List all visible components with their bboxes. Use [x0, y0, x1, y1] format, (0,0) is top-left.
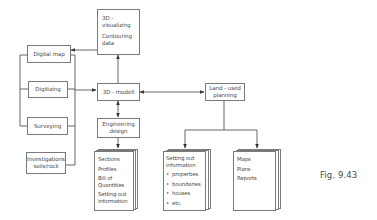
doc-line: Maps	[237, 156, 257, 163]
doc-line: Profiles	[98, 166, 127, 173]
node-line: Land - used	[209, 85, 241, 92]
doc-bullet: houses	[166, 190, 201, 197]
node-line: Contouring	[102, 33, 132, 40]
node-line: Engineering	[102, 121, 134, 128]
node-line: design	[110, 128, 128, 135]
node-label: 3D - modell	[103, 89, 134, 96]
node-3d-visualizing: 3D - visualizing Contouring data	[97, 9, 140, 55]
doc-engineering-outputs: Sections Profiles Bill of Quantities Set…	[94, 149, 138, 211]
node-engineering-design: Engineering design	[97, 118, 140, 138]
node-digitizing: Digitizing	[28, 81, 68, 98]
doc-bullet: etc.	[166, 200, 201, 207]
doc-bullet: boundaries	[166, 181, 201, 188]
node-surveying: Surveying	[27, 117, 68, 135]
doc-title-line: information	[166, 162, 201, 169]
doc-maps-plans-reports: Maps Plans Reports	[233, 149, 281, 211]
right-bracket-line	[66, 55, 75, 165]
doc-line: Bill of	[98, 175, 127, 182]
node-label: Surveying	[34, 123, 61, 130]
node-line: data	[102, 40, 114, 47]
node-line: soils/rock	[33, 163, 58, 170]
doc-title-line: Setting out	[166, 155, 201, 162]
doc-setting-out-information: Setting out information properties bound…	[163, 149, 211, 211]
node-label: Digital map	[33, 51, 64, 58]
node-line: visualizing	[102, 22, 130, 29]
doc-line: Reports	[237, 175, 257, 182]
figure-caption: Fig. 9.43	[320, 170, 357, 180]
node-line: planning	[213, 92, 236, 99]
diagram-canvas: 3D - visualizing Contouring data Digital…	[0, 0, 377, 220]
node-label: Digitizing	[35, 86, 60, 93]
node-line: Investigations	[27, 156, 65, 163]
node-3d-modell: 3D - modell	[97, 83, 140, 101]
node-land-use-planning: Land - used planning	[205, 83, 245, 101]
doc-bullet: properties	[166, 171, 201, 178]
doc-line: Quantities	[98, 182, 127, 189]
doc-line: Plans	[237, 166, 257, 173]
node-line: 3D -	[102, 15, 113, 22]
node-digital-map: Digital map	[27, 45, 71, 63]
left-bracket-line	[20, 55, 27, 126]
doc-line: information	[98, 198, 127, 205]
node-investigations: Investigations soils/rock	[26, 152, 66, 174]
doc-line: Sections	[98, 156, 127, 163]
doc-line: Setting out	[98, 191, 127, 198]
